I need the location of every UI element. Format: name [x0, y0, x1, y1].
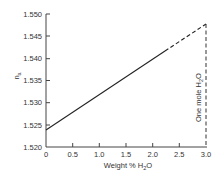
svg-text:1.535: 1.535	[23, 76, 42, 85]
x-axis-label: Weight % H2O	[104, 161, 153, 171]
svg-text:1.540: 1.540	[23, 54, 42, 63]
y-axis-label: na	[12, 71, 22, 79]
svg-text:0.5: 0.5	[67, 150, 77, 159]
refractive-index-chart: 1.550 1.545 1.540 1.535 1.530 1.525 1.52…	[0, 0, 222, 178]
x-ticks	[73, 143, 180, 147]
svg-text:2.0: 2.0	[147, 150, 157, 159]
svg-text:0: 0	[44, 150, 48, 159]
x-tick-labels: 0 0.5 1.0 1.5 2.0 2.5 3.0	[44, 150, 211, 159]
svg-text:1.520: 1.520	[23, 143, 42, 152]
svg-text:1.545: 1.545	[23, 32, 42, 41]
y-tick-labels: 1.550 1.545 1.540 1.535 1.530 1.525 1.52…	[23, 10, 42, 152]
svg-text:3.0: 3.0	[201, 150, 211, 159]
one-mole-annotation: One mole H2O	[194, 73, 204, 122]
svg-text:1.530: 1.530	[23, 98, 42, 107]
svg-text:1.525: 1.525	[23, 121, 42, 130]
svg-text:1.550: 1.550	[23, 10, 42, 19]
y-ticks	[46, 14, 50, 125]
series-solid-line	[46, 51, 165, 130]
series-dashed-line	[165, 24, 206, 51]
svg-text:1.5: 1.5	[121, 150, 131, 159]
svg-text:1.0: 1.0	[94, 150, 104, 159]
svg-text:2.5: 2.5	[174, 150, 184, 159]
